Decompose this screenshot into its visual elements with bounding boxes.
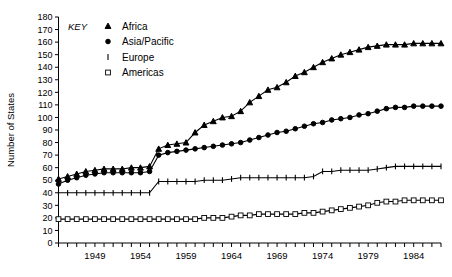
data-point [311,121,316,126]
y-tick-label: 150 [37,50,52,60]
data-point [211,215,216,220]
data-point [120,217,125,222]
data-point [93,217,98,222]
data-point [201,122,207,127]
legend-marker-africa [105,23,111,28]
data-point [74,217,79,222]
y-tick-label: 0 [47,238,52,248]
data-point [339,116,344,121]
x-tick-label: 1954 [130,250,151,261]
chart-container: 0102030405060708090100110120130140150160… [0,0,452,277]
data-point [348,115,353,120]
data-point [348,205,353,210]
x-tick-label: 1959 [175,250,196,261]
data-point [247,99,253,104]
data-point [129,217,134,222]
data-point [275,130,280,135]
data-point [384,106,389,111]
y-tick-label: 90 [42,125,52,135]
data-point [184,148,189,153]
data-point [129,170,134,175]
y-tick-label: 170 [37,25,52,35]
data-point [184,217,189,222]
series-americas [56,198,443,222]
data-point [402,198,407,203]
data-point [193,217,198,222]
data-point [102,217,107,222]
data-point [56,182,61,187]
data-point [93,172,98,177]
data-point [138,217,143,222]
data-point [74,175,79,180]
y-tick-label: 120 [37,88,52,98]
data-point [147,217,152,222]
data-point [65,217,70,222]
data-point [420,104,425,109]
y-tick-label: 30 [42,201,52,211]
data-point [220,215,225,220]
data-point [357,204,362,209]
data-point [393,199,398,204]
x-axis: 19491954195919641969197419791984 [59,243,442,261]
data-point [292,73,298,78]
data-point [301,69,307,74]
data-point [202,215,207,220]
data-point [84,173,89,178]
y-tick-label: 180 [37,12,52,22]
y-tick-label: 50 [42,175,52,185]
series-line [59,43,442,179]
data-point [411,198,416,203]
legend-marker-americas [106,70,111,75]
data-point [220,143,225,148]
data-point [156,146,162,151]
data-point [274,84,280,89]
y-tick-label: 60 [42,163,52,173]
data-point [375,200,380,205]
data-point [311,210,316,215]
data-point [439,104,444,109]
data-point [247,138,252,143]
data-point [247,213,252,218]
data-point [302,210,307,215]
data-point [147,169,152,174]
series-europe [59,164,442,196]
y-axis: 0102030405060708090100110120130140150160… [37,12,58,248]
y-tick-label: 40 [42,188,52,198]
series-layer [56,40,444,221]
data-point [439,198,444,203]
data-point [257,135,262,140]
legend-label-asia-pacific: Asia/Pacific [122,36,174,47]
chart-legend: KEYAfricaAsia/PacificEuropeAmericas [68,21,174,79]
data-point [266,133,271,138]
data-point [202,145,207,150]
series-asia-pacific [56,104,443,186]
data-point [102,170,107,175]
data-point [165,217,170,222]
data-point [366,111,371,116]
data-point [165,150,170,155]
y-tick-label: 100 [37,113,52,123]
data-point [175,149,180,154]
data-point [357,113,362,118]
data-point [111,170,116,175]
data-point [174,217,179,222]
data-point [238,140,243,145]
data-point [256,93,262,98]
data-point [411,104,416,109]
data-point [311,64,317,69]
data-point [329,56,335,61]
x-tick-label: 1964 [221,250,242,261]
data-point [65,178,70,183]
data-point [366,203,371,208]
data-point [138,170,143,175]
data-point [320,59,326,64]
data-point [210,118,216,123]
data-point [430,104,435,109]
data-point [256,212,261,217]
y-tick-label: 80 [42,138,52,148]
x-tick-label: 1969 [267,250,288,261]
data-point [229,214,234,219]
y-tick-label: 70 [42,150,52,160]
data-point [420,198,425,203]
y-tick-label: 20 [42,213,52,223]
